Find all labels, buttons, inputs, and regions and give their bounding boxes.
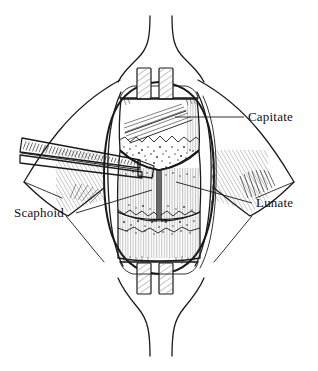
- retractor-blade: [159, 68, 173, 99]
- skin-flap-left: [24, 80, 120, 262]
- label-text-lunate: Lunate: [256, 195, 293, 210]
- label-text-scaphoid: Scaphoid: [14, 205, 64, 220]
- distal-carpal-soft-tissue: [116, 212, 204, 264]
- distal-retractor: [120, 262, 198, 294]
- illustration-canvas: Capitate Lunate Scaphoid: [0, 0, 318, 371]
- label-text-capitate: Capitate: [248, 109, 293, 124]
- retractor-blade: [137, 263, 151, 294]
- retractor-blade: [159, 263, 173, 294]
- wrist-arthrotomy-figure: Capitate Lunate Scaphoid: [0, 0, 318, 371]
- retractor-blade: [137, 68, 151, 99]
